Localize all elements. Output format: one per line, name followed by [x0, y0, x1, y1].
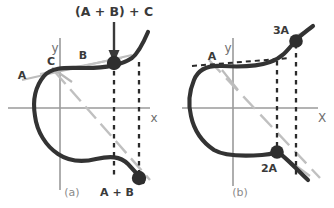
panel-a-top-label: (A + B) + C — [75, 4, 153, 19]
panel-a-point-sum — [132, 171, 146, 185]
panel-b-point-2a — [270, 145, 284, 159]
panel-b-caption: (b) — [232, 186, 248, 199]
panel-a-y-axis-label: y — [51, 41, 58, 55]
panel-a-caption: (a) — [64, 186, 79, 199]
panel-b-point-3a — [289, 34, 303, 48]
panel-b-y-axis-label: y — [224, 41, 231, 55]
panel-a-label-c: C — [47, 55, 55, 68]
panel-b-x-axis-label: X — [318, 111, 326, 125]
panel-b-label-a: A — [208, 50, 217, 63]
panel-a-point-result — [107, 56, 121, 70]
panel-a-x-axis-label: x — [150, 111, 157, 125]
panel-a-label-sum: A + B — [100, 186, 134, 199]
figure-svg: (A + B) + C A C B A + B y x (a) — [0, 0, 334, 208]
panel-b-label-2a: 2A — [261, 162, 278, 175]
elliptic-curve-figure: (A + B) + C A C B A + B y x (a) — [0, 0, 334, 208]
panel-b-label-3a: 3A — [273, 24, 290, 37]
panel-a-label-a: A — [18, 69, 27, 82]
panel-a-label-b: B — [79, 49, 87, 62]
